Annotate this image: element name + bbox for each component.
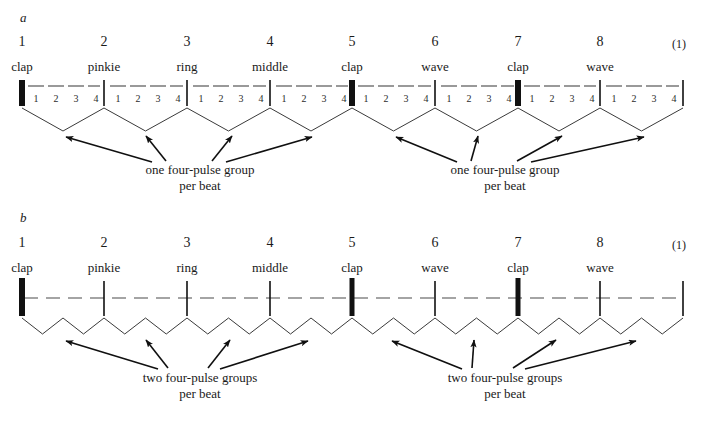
gesture-label-3: ring bbox=[177, 260, 198, 275]
beat-number-8: 8 bbox=[597, 235, 604, 250]
beat-number-8: 8 bbox=[597, 34, 604, 49]
subdivision-number: 4 bbox=[590, 93, 595, 104]
subdivision-number: 2 bbox=[384, 93, 389, 104]
cycle-restart-mark: (1) bbox=[672, 238, 686, 252]
beat-number-7: 7 bbox=[515, 34, 522, 49]
arrow-to-group-pair-6 bbox=[472, 340, 474, 368]
beat-number-7: 7 bbox=[515, 235, 522, 250]
subdivision-number: 4 bbox=[94, 93, 99, 104]
subdivision-number: 4 bbox=[259, 93, 264, 104]
panel-b-beat-ticks bbox=[22, 278, 683, 316]
beat-number-3: 3 bbox=[184, 34, 191, 49]
beat-number-1: 1 bbox=[19, 235, 26, 250]
arrow-to-group-pair-2 bbox=[146, 340, 168, 368]
gesture-label-8: wave bbox=[586, 260, 614, 275]
subdivision-number: 4 bbox=[342, 93, 347, 104]
subdivision-number: 4 bbox=[507, 93, 512, 104]
beat-number-2: 2 bbox=[101, 235, 108, 250]
arrow-to-group-8 bbox=[531, 137, 644, 162]
panel-a-caption-line-2: per beat bbox=[179, 178, 221, 193]
panel-b-caption-right-line-1: two four-pulse groups bbox=[448, 370, 563, 385]
beat-number-4: 4 bbox=[267, 34, 274, 49]
subdivision-number: 1 bbox=[447, 93, 452, 104]
subdivision-number: 3 bbox=[74, 93, 79, 104]
arrow-to-group-pair-4 bbox=[220, 341, 308, 369]
subdivision-number: 1 bbox=[34, 93, 39, 104]
panel-a-arrows-left bbox=[66, 136, 312, 162]
subdivision-number: 4 bbox=[424, 93, 429, 104]
subdivision-number: 2 bbox=[219, 93, 224, 104]
panel-b-caption-line-1: two four-pulse groups bbox=[143, 370, 258, 385]
beat-number-6: 6 bbox=[432, 34, 439, 49]
subdivision-number: 2 bbox=[302, 93, 307, 104]
subdivision-number: 3 bbox=[652, 93, 657, 104]
gesture-label-5: clap bbox=[341, 260, 363, 275]
panel-a: a 1 2 3 4 5 6 7 8 (1) clap pinkie ring m… bbox=[11, 10, 686, 193]
subdivision-number: 3 bbox=[239, 93, 244, 104]
panel-b-caption-right-line-2: per beat bbox=[484, 386, 526, 401]
pulse-group-figure: a 1 2 3 4 5 6 7 8 (1) clap pinkie ring m… bbox=[0, 0, 717, 423]
arrow-to-group-3 bbox=[212, 136, 232, 161]
subdivision-number: 2 bbox=[136, 93, 141, 104]
beat-number-1: 1 bbox=[19, 34, 26, 49]
gesture-label-8: wave bbox=[586, 59, 614, 74]
gesture-label-7: clap bbox=[507, 59, 529, 74]
panel-b-gesture-label-row: clap pinkie ring middle clap wave clap w… bbox=[11, 260, 614, 275]
panel-a-beat-number-row: 1 2 3 4 5 6 7 8 (1) bbox=[19, 34, 687, 51]
panel-b-beat-number-row: 1 2 3 4 5 6 7 8 (1) bbox=[19, 235, 687, 252]
gesture-label-6: wave bbox=[421, 260, 449, 275]
panel-b-caption-line-2: per beat bbox=[179, 386, 221, 401]
subdivision-number: 4 bbox=[672, 93, 677, 104]
arrow-to-group-pair-5 bbox=[392, 341, 462, 369]
panel-a-caption-line-1: one four-pulse group bbox=[146, 162, 255, 177]
arrow-to-group-1 bbox=[66, 137, 152, 162]
arrow-to-group-pair-8 bbox=[525, 341, 636, 369]
subdivision-number: 2 bbox=[54, 93, 59, 104]
gesture-label-7: clap bbox=[507, 260, 529, 275]
panel-b-letter: b bbox=[20, 210, 27, 225]
panel-a-gesture-label-row: clap pinkie ring middle clap wave clap w… bbox=[11, 59, 614, 74]
subdivision-number: 1 bbox=[282, 93, 287, 104]
gesture-label-5: clap bbox=[341, 59, 363, 74]
beat-number-5: 5 bbox=[349, 34, 356, 49]
panel-a-arrows-right bbox=[396, 136, 644, 162]
panel-b: b 1 2 3 4 5 6 7 8 (1) clap pinkie ring m… bbox=[11, 210, 686, 401]
subdivision-number: 4 bbox=[176, 93, 181, 104]
gesture-label-1: clap bbox=[11, 260, 33, 275]
arrow-to-group-6 bbox=[471, 136, 478, 161]
panel-b-arrows-right bbox=[392, 340, 636, 369]
panel-a-caption-right-line-1: one four-pulse group bbox=[451, 162, 560, 177]
gesture-label-6: wave bbox=[421, 59, 449, 74]
arrow-to-group-pair-1 bbox=[66, 341, 158, 369]
subdivision-number: 2 bbox=[467, 93, 472, 104]
subdivision-number: 3 bbox=[487, 93, 492, 104]
panel-a-letter: a bbox=[20, 10, 27, 25]
arrow-to-group-pair-7 bbox=[513, 340, 556, 368]
subdivision-number: 3 bbox=[322, 93, 327, 104]
panel-a-group-brackets bbox=[22, 108, 683, 131]
gesture-label-3: ring bbox=[177, 59, 198, 74]
subdivision-number: 1 bbox=[199, 93, 204, 104]
beat-number-5: 5 bbox=[349, 235, 356, 250]
gesture-label-4: middle bbox=[252, 260, 288, 275]
arrow-to-group-pair-3 bbox=[208, 340, 230, 368]
arrow-to-group-2 bbox=[146, 136, 166, 161]
arrow-to-group-4 bbox=[226, 137, 312, 162]
subdivision-number: 2 bbox=[632, 93, 637, 104]
subdivision-number: 1 bbox=[364, 93, 369, 104]
gesture-label-2: pinkie bbox=[88, 59, 121, 74]
subdivision-number: 3 bbox=[156, 93, 161, 104]
subdivision-number: 1 bbox=[116, 93, 121, 104]
beat-number-2: 2 bbox=[101, 34, 108, 49]
subdivision-number: 3 bbox=[570, 93, 575, 104]
beat-number-3: 3 bbox=[184, 235, 191, 250]
arrow-to-group-5 bbox=[396, 137, 457, 162]
figure-root: a 1 2 3 4 5 6 7 8 (1) clap pinkie ring m… bbox=[0, 0, 717, 423]
panel-b-arrows-left bbox=[66, 340, 308, 369]
beat-number-4: 4 bbox=[267, 235, 274, 250]
subdivision-number: 3 bbox=[404, 93, 409, 104]
panel-b-group-brackets bbox=[22, 318, 683, 334]
beat-number-6: 6 bbox=[432, 235, 439, 250]
panel-a-caption-right-line-2: per beat bbox=[484, 178, 526, 193]
gesture-label-1: clap bbox=[11, 59, 33, 74]
